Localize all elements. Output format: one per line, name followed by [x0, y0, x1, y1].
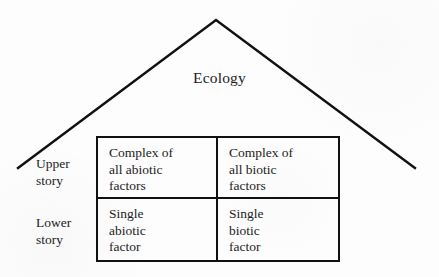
table-cell-line: Complex of — [229, 145, 338, 162]
table-cell-line: all biotic — [229, 162, 338, 179]
table-cell-line: Single — [109, 206, 216, 223]
table-cell-upper-abiotic: Complex of all abiotic factors — [98, 138, 218, 199]
table-cell-line: abiotic — [109, 223, 216, 240]
story-label-lower-line1: Lower — [36, 214, 98, 231]
story-label-lower: Lower story — [36, 214, 98, 248]
story-label-upper: Upper story — [36, 155, 98, 189]
story-label-upper-line1: Upper — [36, 155, 98, 172]
table-cell-lower-biotic: Single biotic factor — [218, 199, 338, 260]
table-cell-line: biotic — [229, 223, 338, 240]
table-cell-line: Complex of — [109, 145, 216, 162]
house-body-table: Complex of all abiotic factors Complex o… — [96, 136, 340, 262]
table-cell-line: factor — [109, 239, 216, 256]
table-cell-line: factor — [229, 239, 338, 256]
table-cell-lower-abiotic: Single abiotic factor — [98, 199, 218, 260]
table-cell-line: factors — [229, 178, 338, 195]
story-label-lower-line2: story — [36, 231, 98, 248]
ecology-house-diagram: Ecology Upper story Lower story Complex … — [0, 0, 439, 277]
table-cell-line: Single — [229, 206, 338, 223]
roof-title-ecology: Ecology — [0, 70, 439, 86]
table-cell-upper-biotic: Complex of all biotic factors — [218, 138, 338, 199]
story-label-upper-line2: story — [36, 172, 98, 189]
table-cell-line: all abiotic — [109, 162, 216, 179]
table-cell-line: factors — [109, 178, 216, 195]
